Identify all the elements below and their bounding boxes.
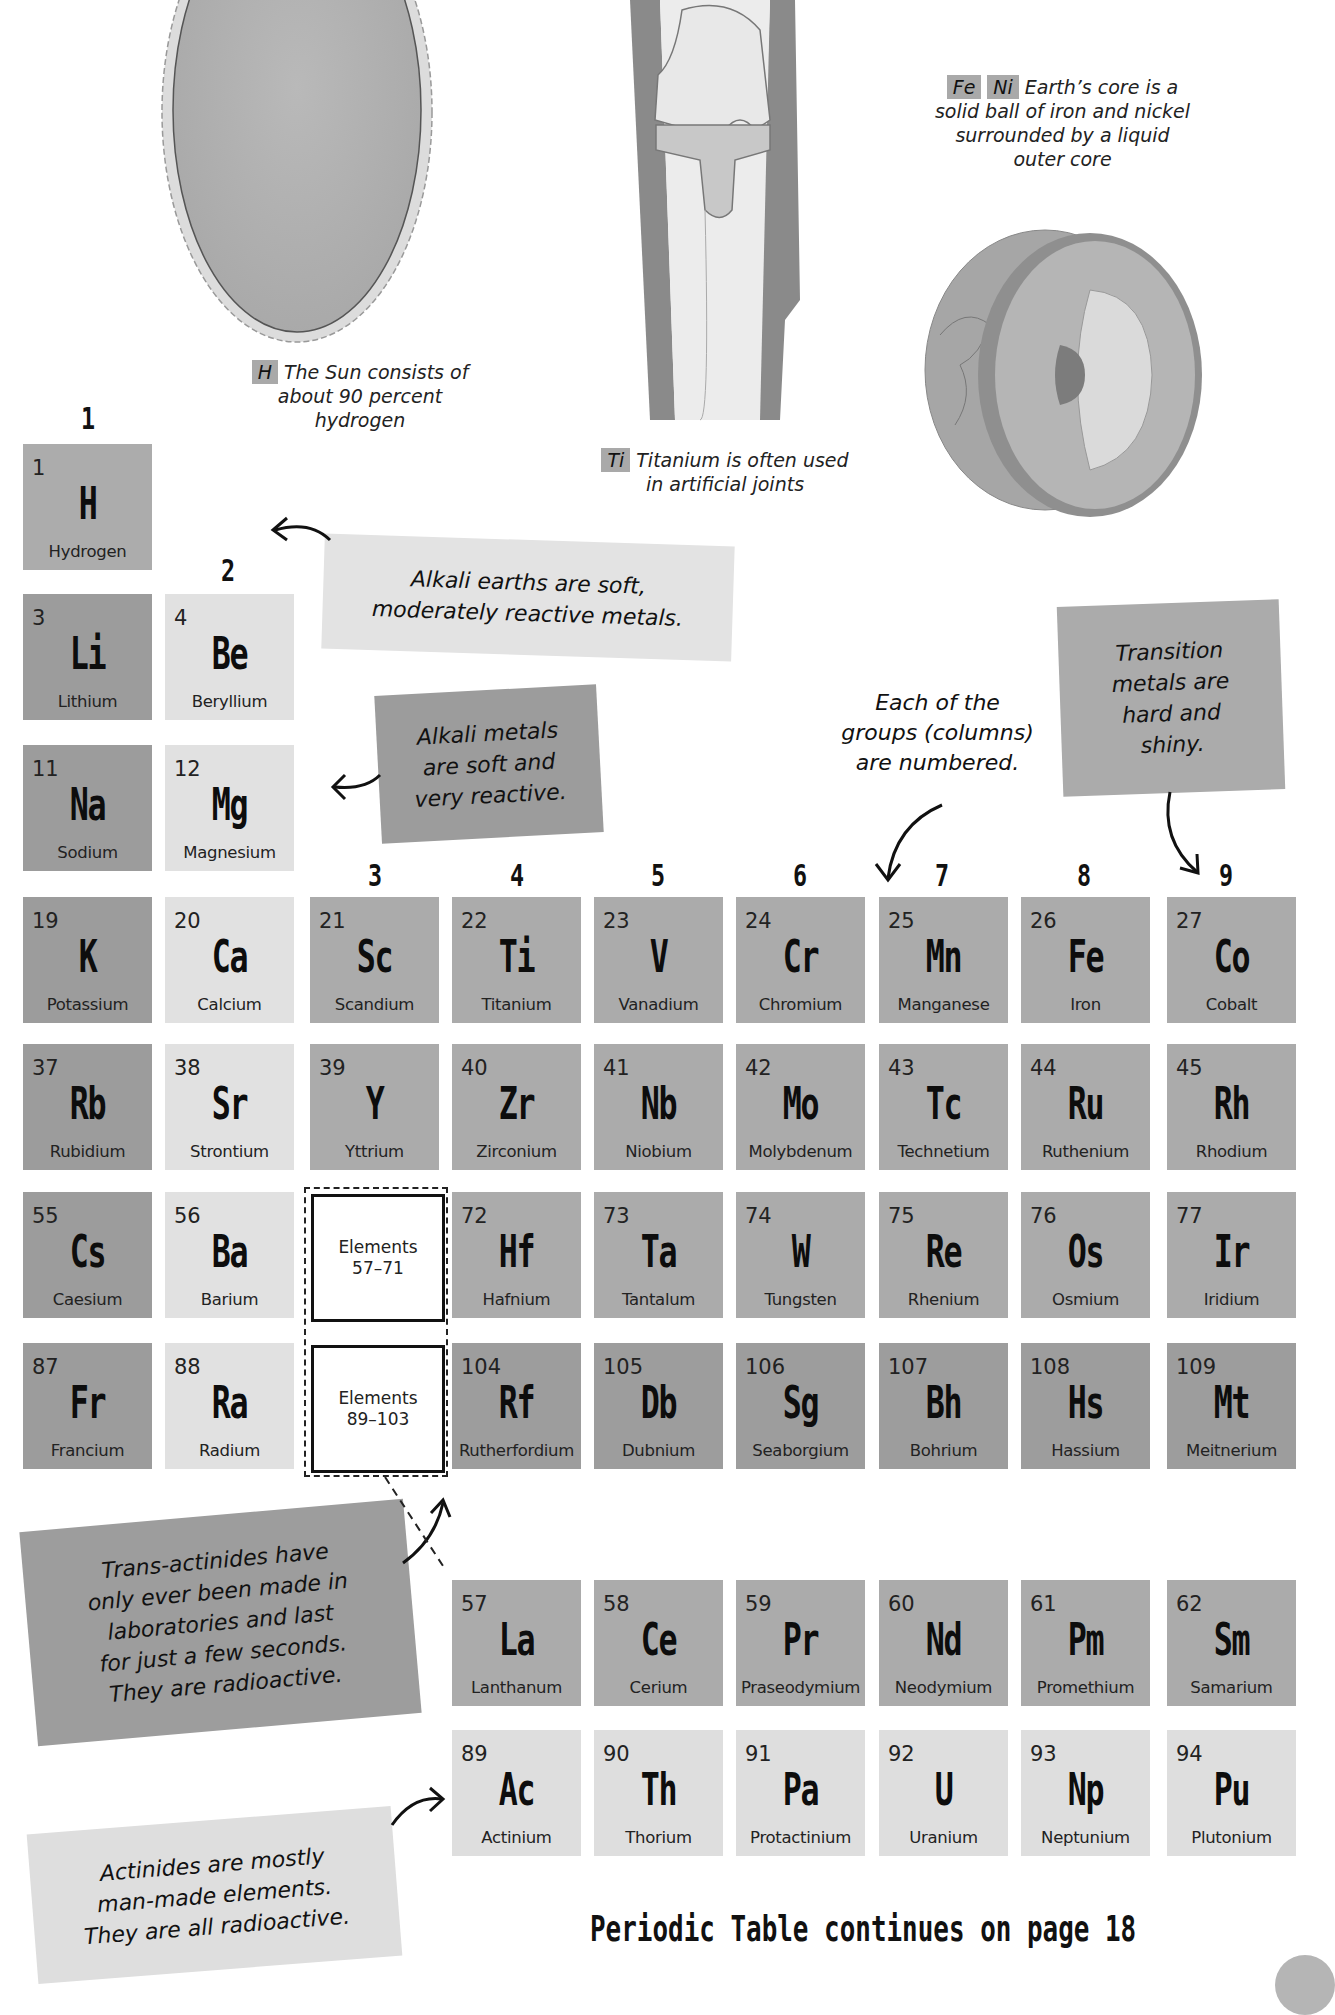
atomic-number: 74 bbox=[745, 1204, 772, 1228]
element-tile-barium: 56BaBarium bbox=[165, 1192, 294, 1318]
element-name: Strontium bbox=[165, 1142, 294, 1161]
element-symbol: Nb bbox=[612, 1078, 705, 1130]
element-tile-beryllium: 4BeBeryllium bbox=[165, 594, 294, 720]
atomic-number: 109 bbox=[1176, 1355, 1216, 1379]
element-tile-rhodium: 45RhRhodium bbox=[1167, 1044, 1296, 1170]
element-symbol: Fr bbox=[41, 1377, 134, 1429]
element-name: Caesium bbox=[23, 1290, 152, 1309]
element-tile-sodium: 11NaSodium bbox=[23, 745, 152, 871]
titanium-caption: TiTitanium is often used in artificial j… bbox=[575, 448, 875, 496]
atomic-number: 42 bbox=[745, 1056, 772, 1080]
element-name: Tungsten bbox=[736, 1290, 865, 1309]
element-symbol: Ba bbox=[183, 1226, 276, 1278]
element-tile-bohrium: 107BhBohrium bbox=[879, 1343, 1008, 1469]
caption-chip-ti: Ti bbox=[601, 448, 630, 472]
element-tile-meitnerium: 109MtMeitnerium bbox=[1167, 1343, 1296, 1469]
element-symbol: Ru bbox=[1039, 1078, 1132, 1130]
element-name: Manganese bbox=[879, 995, 1008, 1014]
element-name: Vanadium bbox=[594, 995, 723, 1014]
element-symbol: Na bbox=[41, 779, 134, 831]
atomic-number: 27 bbox=[1176, 909, 1203, 933]
element-symbol: Ir bbox=[1185, 1226, 1278, 1278]
element-name: Neodymium bbox=[879, 1678, 1008, 1697]
element-name: Hydrogen bbox=[23, 542, 152, 561]
earth-caption: FeNiEarth’s core is a solid ball of iron… bbox=[910, 75, 1215, 171]
element-symbol: Rb bbox=[41, 1078, 134, 1130]
element-symbol: Bh bbox=[897, 1377, 990, 1429]
sun-illustration bbox=[160, 0, 435, 345]
arrow-to-alkali-earths-icon bbox=[265, 510, 335, 560]
element-tile-hydrogen: 1HHydrogen bbox=[23, 444, 152, 570]
element-name: Magnesium bbox=[165, 843, 294, 862]
element-tile-molybdenum: 42MoMolybdenum bbox=[736, 1044, 865, 1170]
element-name: Dubnium bbox=[594, 1441, 723, 1460]
element-symbol: Ca bbox=[183, 931, 276, 983]
element-tile-chromium: 24CrChromium bbox=[736, 897, 865, 1023]
atomic-number: 56 bbox=[174, 1204, 201, 1228]
group-number-8: 8 bbox=[1068, 861, 1099, 891]
note-alkali-metals: Alkali metalsare soft andvery reactive. bbox=[374, 684, 603, 843]
atomic-number: 62 bbox=[1176, 1592, 1203, 1616]
atomic-number: 4 bbox=[174, 606, 187, 630]
atomic-number: 76 bbox=[1030, 1204, 1057, 1228]
atomic-number: 26 bbox=[1030, 909, 1057, 933]
atomic-number: 92 bbox=[888, 1742, 915, 1766]
element-tile-manganese: 25MnManganese bbox=[879, 897, 1008, 1023]
element-tile-actinium: 89AcActinium bbox=[452, 1730, 581, 1856]
element-symbol: Mo bbox=[754, 1078, 847, 1130]
element-symbol: Fe bbox=[1039, 931, 1132, 983]
element-name: Lanthanum bbox=[452, 1678, 581, 1697]
element-tile-rubidium: 37RbRubidium bbox=[23, 1044, 152, 1170]
element-tile-lithium: 3LiLithium bbox=[23, 594, 152, 720]
atomic-number: 23 bbox=[603, 909, 630, 933]
element-symbol: Cr bbox=[754, 931, 847, 983]
element-name: Cerium bbox=[594, 1678, 723, 1697]
atomic-number: 89 bbox=[461, 1742, 488, 1766]
element-symbol: Ti bbox=[470, 931, 563, 983]
element-tile-osmium: 76OsOsmium bbox=[1021, 1192, 1150, 1318]
atomic-number: 11 bbox=[32, 757, 59, 781]
element-name: Potassium bbox=[23, 995, 152, 1014]
atomic-number: 88 bbox=[174, 1355, 201, 1379]
atomic-number: 37 bbox=[32, 1056, 59, 1080]
element-tile-hassium: 108HsHassium bbox=[1021, 1343, 1150, 1469]
element-symbol: Y bbox=[328, 1078, 421, 1130]
element-tile-caesium: 55CsCaesium bbox=[23, 1192, 152, 1318]
element-symbol: Hs bbox=[1039, 1377, 1132, 1429]
element-symbol: H bbox=[41, 478, 134, 530]
element-symbol: Ce bbox=[612, 1614, 705, 1666]
atomic-number: 90 bbox=[603, 1742, 630, 1766]
element-tile-plutonium: 94PuPlutonium bbox=[1167, 1730, 1296, 1856]
element-tile-seaborgium: 106SgSeaborgium bbox=[736, 1343, 865, 1469]
element-symbol: Rh bbox=[1185, 1078, 1278, 1130]
element-name: Neptunium bbox=[1021, 1828, 1150, 1847]
element-symbol: Be bbox=[183, 628, 276, 680]
element-tile-thorium: 90ThThorium bbox=[594, 1730, 723, 1856]
atomic-number: 105 bbox=[603, 1355, 643, 1379]
element-name: Seaborgium bbox=[736, 1441, 865, 1460]
element-name: Ruthenium bbox=[1021, 1142, 1150, 1161]
element-symbol: Zr bbox=[470, 1078, 563, 1130]
earth-core-illustration bbox=[920, 225, 1210, 525]
group-number-6: 6 bbox=[784, 861, 815, 891]
atomic-number: 94 bbox=[1176, 1742, 1203, 1766]
caption-chip-h: H bbox=[252, 360, 278, 384]
element-symbol: Nd bbox=[897, 1614, 990, 1666]
element-tile-cobalt: 27CoCobalt bbox=[1167, 897, 1296, 1023]
element-name: Francium bbox=[23, 1441, 152, 1460]
atomic-number: 1 bbox=[32, 456, 45, 480]
arrow-to-group-numbers-icon bbox=[870, 800, 950, 885]
element-tile-rutherfordium: 104RfRutherfordium bbox=[452, 1343, 581, 1469]
arrow-to-group-9-icon bbox=[1155, 790, 1215, 880]
element-tile-protactinium: 91PaProtactinium bbox=[736, 1730, 865, 1856]
element-name: Sodium bbox=[23, 843, 152, 862]
element-tile-uranium: 92UUranium bbox=[879, 1730, 1008, 1856]
element-tile-iron: 26FeIron bbox=[1021, 897, 1150, 1023]
atomic-number: 104 bbox=[461, 1355, 501, 1379]
element-tile-tantalum: 73TaTantalum bbox=[594, 1192, 723, 1318]
element-name: Iron bbox=[1021, 995, 1150, 1014]
atomic-number: 93 bbox=[1030, 1742, 1057, 1766]
arrow-to-alkali-metals-icon bbox=[325, 765, 385, 810]
atomic-number: 73 bbox=[603, 1204, 630, 1228]
element-name: Chromium bbox=[736, 995, 865, 1014]
